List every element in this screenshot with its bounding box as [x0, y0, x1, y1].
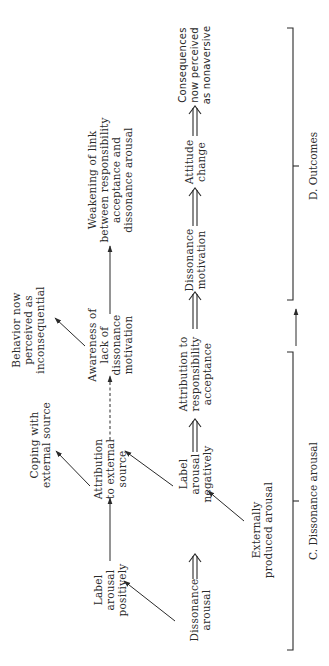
double-arrow-dissonance-to-label-neg — [189, 554, 201, 579]
arrow-awareness-to-behavior — [55, 318, 85, 346]
node-label-arousal-negatively: Label arousal negatively — [177, 446, 213, 503]
node-attribution-external-source: Attribution to external source — [92, 439, 128, 500]
node-label-arousal-positively: Label arousal positively — [92, 564, 128, 617]
node-awareness-lack-dissonance-motivation: Awareness of lack of dissonance motivati… — [86, 308, 134, 381]
node-weakening-link: Weakening of link between responsibility… — [86, 117, 134, 242]
bracket-d — [287, 28, 299, 300]
node-behavior-inconsequential: Behavior now perceived as inconsequentia… — [10, 286, 46, 373]
double-arrow-diss-motivation-to-attitude — [189, 188, 201, 226]
double-arrow-attr-resp-to-diss-motivation — [189, 292, 201, 329]
node-externally-produced-arousal: Externally produced arousal — [250, 482, 274, 578]
node-coping-external-source: Coping with external source — [28, 402, 52, 488]
bracket-label-outcomes: D. Outcomes — [307, 132, 319, 200]
bracket-c — [287, 352, 299, 650]
node-attitude-change: Attitude change — [183, 140, 207, 185]
node-dissonance-arousal: Dissonance arousal — [188, 579, 212, 642]
arrow-dissonance-to-label-pos — [124, 581, 175, 621]
arrow-externally-to-label-neg — [208, 491, 244, 521]
bracket-label-dissonance-arousal: C. Dissonance arousal — [307, 442, 319, 560]
connector-lines — [0, 0, 329, 666]
node-attribution-responsibility-acceptance: Attribution to responsibility acceptance — [177, 336, 213, 411]
node-dissonance-motivation: Dissonance motivation — [183, 229, 207, 292]
arrow-attr-ext-to-coping — [56, 451, 90, 486]
diagram-canvas: Dissonance arousal Label arousal positiv… — [0, 0, 329, 666]
arrow-label-neg-to-attr-ext — [125, 451, 173, 486]
node-consequences-nonaversive: Consequences now perceived as nonaversiv… — [177, 26, 213, 104]
double-arrow-attitude-to-consequences — [189, 106, 201, 136]
